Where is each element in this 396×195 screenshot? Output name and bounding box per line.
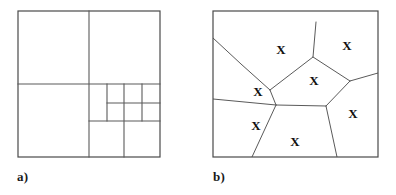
panel-b-caption: b) [213,170,225,183]
voronoi-site-top-left-marker: X [276,42,286,57]
voronoi-diagram: XXXXXXX [198,0,396,165]
quadtree-diagram [0,0,198,165]
figure-root: a) XXXXXXX b) [0,0,396,195]
voronoi-edge-bottom-right-split [326,106,337,157]
voronoi-edge-left-horizontal [213,99,276,105]
voronoi-site-left-marker: X [253,84,263,99]
voronoi-edge-left-to-center-junction [270,90,276,105]
voronoi-site-bottom-left-marker: X [251,118,261,133]
voronoi-edge-right-border [350,73,378,81]
voronoi-site-bottom-marker: X [290,134,300,149]
voronoi-site-top-right-marker: X [342,38,352,53]
voronoi-edge-center-bottom [276,105,326,106]
panel-quadtree: a) [0,0,198,195]
panel-voronoi: XXXXXXX b) [198,0,396,195]
voronoi-edge-topleft-to-left-border [213,38,270,90]
voronoi-edge-center-right [326,81,350,106]
panel-a-caption: a) [17,170,28,183]
voronoi-site-right-marker: X [348,106,358,121]
voronoi-site-center-marker: X [309,73,319,88]
